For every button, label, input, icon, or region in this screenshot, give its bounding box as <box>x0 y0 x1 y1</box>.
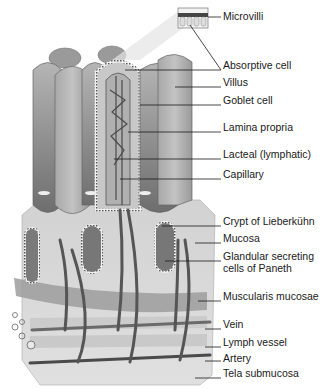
label-absorptive-cell: Absorptive cell <box>223 60 291 71</box>
label-lacteal: Lacteal (lymphatic) <box>223 149 311 160</box>
label-tela-submucosa: Tela submucosa <box>223 368 299 379</box>
label-mucosa: Mucosa <box>223 233 260 244</box>
microvilli-inset <box>112 8 208 60</box>
label-artery: Artery <box>223 353 251 364</box>
label-glandular-cells-2: cells of Paneth <box>223 263 292 274</box>
label-vein: Vein <box>223 319 243 330</box>
label-goblet-cell: Goblet cell <box>223 95 273 106</box>
label-lamina-propria: Lamina propria <box>223 122 293 133</box>
label-lymph-vessel: Lymph vessel <box>223 337 287 348</box>
label-crypt-of-lieberkuhn: Crypt of Lieberkühn <box>223 216 315 227</box>
villi <box>33 54 192 213</box>
label-glandular-cells: Glandular secreting <box>223 251 314 262</box>
label-villus: Villus <box>223 77 248 88</box>
label-capillary: Capillary <box>223 169 264 180</box>
label-muscularis-mucosae: Muscularis mucosae <box>223 291 319 302</box>
label-microvilli: Microvilli <box>223 11 263 22</box>
